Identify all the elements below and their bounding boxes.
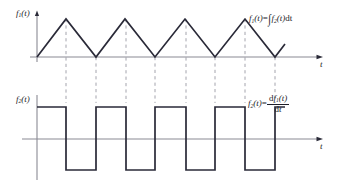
integral-icon: ∫: [269, 12, 272, 25]
bottom-plot-formula: f2(t)=df1(t)dt: [248, 94, 289, 115]
dashed-guide-lines: [66, 19, 275, 103]
top-plot-y-axis-label: f1(t): [16, 9, 30, 19]
top-plot-x-axis-label: t: [320, 60, 323, 69]
derivative-fraction: df1(t)dt: [267, 94, 289, 115]
bottom-plot-x-axis-label: t: [320, 142, 323, 151]
bottom-plot-y-axis-label: f2(t): [16, 95, 30, 105]
top-plot-formula: f1(t)=∫f2(t)dt: [249, 12, 292, 25]
top-plot-y-axis-arrow: [35, 11, 39, 17]
triangular-waveform: [37, 19, 285, 57]
